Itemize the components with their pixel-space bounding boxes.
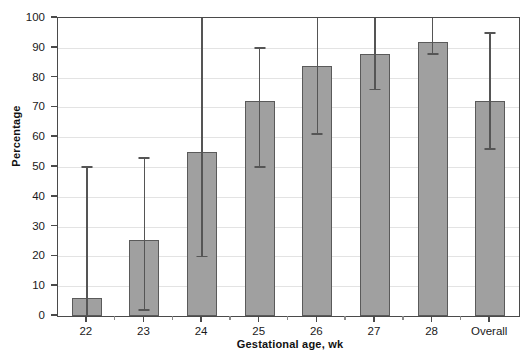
gridline <box>58 197 519 198</box>
error-bar-cap-upper <box>81 166 92 168</box>
error-bar-cap-lower <box>312 133 323 135</box>
error-bar-cap-lower <box>369 89 380 91</box>
error-bar-cap-lower <box>427 53 438 55</box>
y-tick-label: 90 <box>13 41 45 53</box>
gridline <box>58 167 519 168</box>
x-minor-tick-mark <box>114 316 116 320</box>
gridline <box>58 286 519 287</box>
x-tick-mark <box>488 316 490 322</box>
y-tick-label: 50 <box>13 160 45 172</box>
x-tick-mark <box>258 316 260 322</box>
x-tick-mark <box>200 316 202 322</box>
x-tick-mark <box>431 316 433 322</box>
y-tick-label: 30 <box>13 220 45 232</box>
error-bar-cap-upper <box>254 47 265 49</box>
y-tick-label: 70 <box>13 100 45 112</box>
y-tick-label: 40 <box>13 190 45 202</box>
x-minor-tick-mark <box>172 316 174 320</box>
error-bar-cap-lower <box>485 148 496 150</box>
error-bar-line <box>489 33 491 149</box>
error-bar-line <box>86 167 88 316</box>
x-minor-tick-mark <box>287 316 289 320</box>
error-bar-line <box>432 18 434 54</box>
error-bar-line <box>144 158 146 310</box>
error-bar-line <box>317 18 319 134</box>
x-tick-mark <box>143 316 145 322</box>
gridline <box>58 107 519 108</box>
gridline <box>58 256 519 257</box>
plot-area <box>57 17 520 317</box>
x-minor-tick-mark <box>402 316 404 320</box>
x-tick-label: Overall <box>454 325 524 337</box>
x-axis-title: Gestational age, wk <box>60 338 520 350</box>
x-minor-tick-mark <box>229 316 231 320</box>
y-tick-label: 100 <box>13 11 45 23</box>
y-tick-label: 60 <box>13 130 45 142</box>
error-bar-line <box>259 48 261 167</box>
bar <box>360 54 390 316</box>
error-bar-cap-lower <box>139 309 150 311</box>
bar <box>418 42 448 316</box>
error-bar-cap-lower <box>254 166 265 168</box>
x-tick-mark <box>316 316 318 322</box>
y-tick-label: 10 <box>13 279 45 291</box>
y-tick-label: 0 <box>13 309 45 321</box>
error-bar-cap-upper <box>485 32 496 34</box>
gridline <box>58 48 519 49</box>
y-tick-label: 20 <box>13 249 45 261</box>
bar-chart: Percentage 0102030405060708090100 222324… <box>0 0 530 360</box>
gridline <box>58 227 519 228</box>
x-minor-tick-mark <box>344 316 346 320</box>
y-tick-label: 80 <box>13 71 45 83</box>
gridline <box>58 78 519 79</box>
error-bar-line <box>374 18 376 90</box>
error-bar-cap-lower <box>197 256 208 258</box>
x-tick-mark <box>85 316 87 322</box>
y-axis: 0102030405060708090100 <box>0 17 57 315</box>
error-bar-line <box>201 18 203 256</box>
x-minor-tick-mark <box>460 316 462 320</box>
x-tick-mark <box>373 316 375 322</box>
error-bar-cap-upper <box>139 157 150 159</box>
gridline <box>58 137 519 138</box>
